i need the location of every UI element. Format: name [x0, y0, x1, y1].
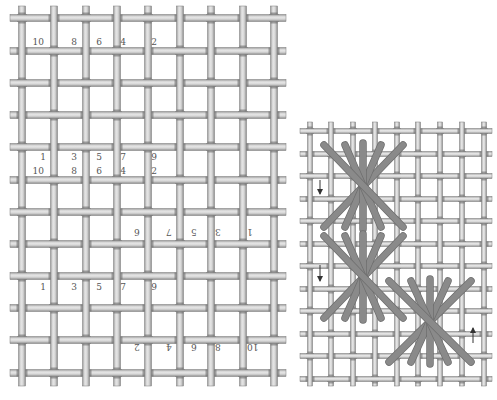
- thread-number-label: 2: [151, 37, 157, 47]
- thread-crossing: [81, 209, 91, 216]
- thread-number-label: 7: [120, 282, 126, 292]
- thread-crossing: [480, 309, 488, 314]
- thread-number-label: 6: [96, 166, 102, 176]
- left-canvas-grid: [10, 6, 286, 386]
- thread-crossing: [458, 152, 466, 157]
- thread-crossing: [17, 209, 27, 216]
- thread-crossing: [81, 273, 91, 280]
- thread-number-label: 1: [40, 282, 46, 292]
- thread-crossing: [112, 112, 122, 119]
- thread-number-label: 9: [151, 282, 157, 292]
- thread-crossing: [17, 15, 27, 22]
- vertical-thread: [114, 6, 121, 386]
- thread-crossing: [458, 197, 466, 202]
- thread-crossing: [143, 144, 153, 151]
- thread-crossing: [206, 209, 216, 216]
- thread-crossing: [81, 144, 91, 151]
- thread-crossing: [81, 80, 91, 87]
- thread-number-label: 3: [215, 227, 221, 237]
- thread-crossing: [436, 129, 444, 134]
- thread-crossing: [175, 370, 185, 377]
- thread-crossing: [49, 241, 59, 248]
- thread-crossing: [206, 80, 216, 87]
- thread-crossing: [17, 273, 27, 280]
- thread-crossing: [17, 80, 27, 87]
- thread-crossing: [306, 264, 314, 269]
- thread-crossing: [393, 264, 401, 269]
- thread-crossing: [143, 209, 153, 216]
- thread-crossing: [238, 112, 248, 119]
- thread-crossing: [238, 48, 248, 55]
- thread-crossing: [112, 48, 122, 55]
- thread-crossing: [480, 129, 488, 134]
- thread-crossing: [269, 15, 279, 22]
- thread-crossing: [206, 144, 216, 151]
- thread-crossing: [480, 264, 488, 269]
- thread-crossing: [436, 264, 444, 269]
- vertical-thread: [395, 122, 400, 386]
- thread-number-label: 8: [71, 37, 77, 47]
- thread-number-label: 5: [96, 152, 102, 162]
- thread-crossing: [327, 197, 335, 202]
- thread-number-label: 10: [33, 37, 45, 47]
- thread-crossing: [112, 241, 122, 248]
- thread-crossing: [49, 177, 59, 184]
- thread-crossing: [175, 48, 185, 55]
- thread-number-label: 1: [247, 227, 253, 237]
- vertical-thread: [51, 6, 58, 386]
- thread-crossing: [458, 377, 466, 382]
- thread-crossing: [206, 337, 216, 344]
- thread-crossing: [480, 354, 488, 359]
- thread-crossing: [306, 129, 314, 134]
- thread-crossing: [112, 305, 122, 312]
- thread-number-label: 1: [40, 152, 46, 162]
- thread-crossing: [349, 129, 357, 134]
- thread-crossing: [393, 129, 401, 134]
- thread-number-label: 8: [71, 166, 77, 176]
- thread-crossing: [269, 273, 279, 280]
- stitch-diagram: 108642135791086426753113579246810: [0, 0, 497, 400]
- thread-number-label: 6: [191, 342, 197, 352]
- thread-crossing: [175, 241, 185, 248]
- thread-crossing: [17, 337, 27, 344]
- thread-number-label: 5: [96, 282, 102, 292]
- thread-crossing: [206, 273, 216, 280]
- thread-crossing: [269, 144, 279, 151]
- thread-crossing: [306, 219, 314, 224]
- vertical-thread: [145, 6, 152, 386]
- thread-crossing: [306, 354, 314, 359]
- thread-number-label: 4: [120, 166, 126, 176]
- thread-crossing: [143, 15, 153, 22]
- star-middle: [324, 234, 403, 320]
- thread-crossing: [371, 332, 379, 337]
- thread-crossing: [393, 174, 401, 179]
- thread-crossing: [49, 112, 59, 119]
- thread-crossing: [143, 337, 153, 344]
- thread-number-label: 3: [71, 282, 77, 292]
- thread-crossing: [327, 332, 335, 337]
- thread-crossing: [175, 305, 185, 312]
- thread-crossing: [269, 337, 279, 344]
- thread-number-label: 5: [191, 227, 197, 237]
- vertical-thread: [308, 122, 313, 386]
- thread-crossing: [49, 48, 59, 55]
- thread-crossing: [327, 287, 335, 292]
- thread-crossing: [143, 273, 153, 280]
- thread-crossing: [238, 241, 248, 248]
- thread-crossing: [414, 152, 422, 157]
- thread-crossing: [349, 354, 357, 359]
- thread-crossing: [81, 15, 91, 22]
- thread-number-label: 2: [134, 342, 140, 352]
- thread-crossing: [175, 112, 185, 119]
- star-bottom: [389, 279, 471, 364]
- thread-crossing: [17, 144, 27, 151]
- vertical-thread: [329, 122, 334, 386]
- vertical-thread: [19, 6, 26, 386]
- thread-crossing: [436, 174, 444, 179]
- thread-crossing: [480, 174, 488, 179]
- thread-crossing: [414, 197, 422, 202]
- thread-crossing: [269, 80, 279, 87]
- thread-number-label: 10: [33, 166, 45, 176]
- right-canvas-grid: [300, 122, 492, 386]
- thread-crossing: [175, 177, 185, 184]
